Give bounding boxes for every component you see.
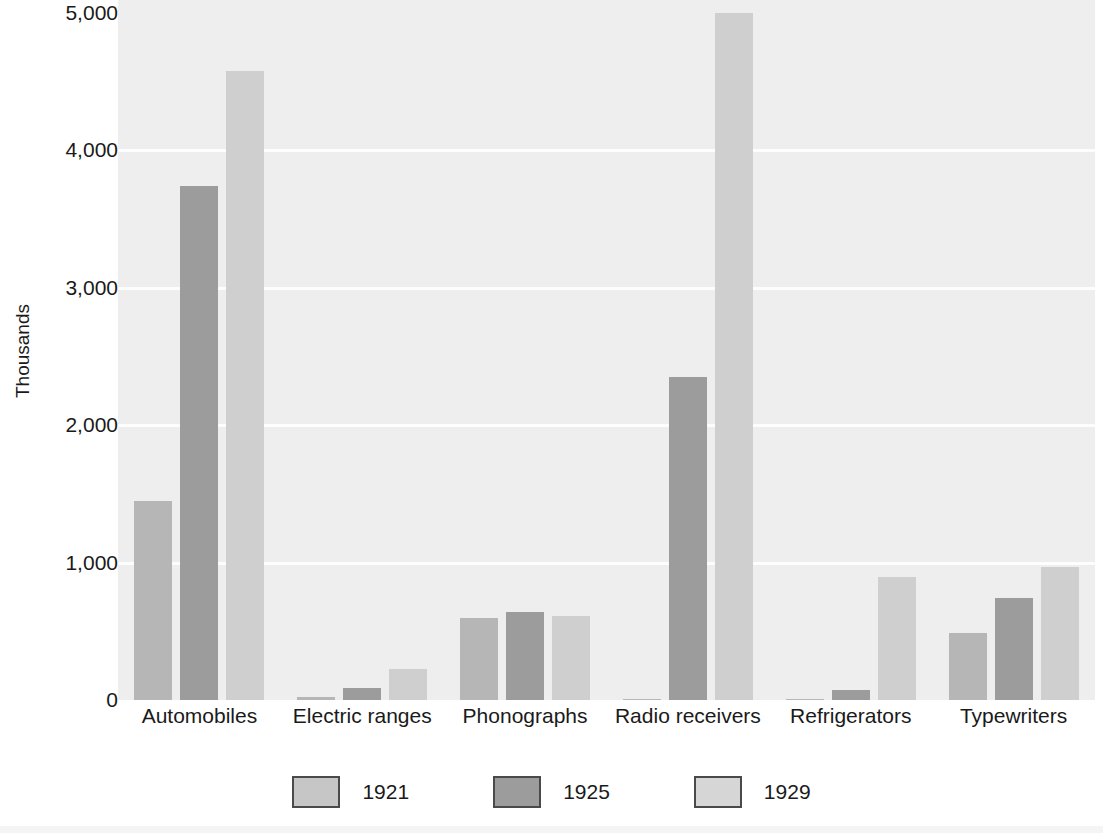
legend-item-1921[interactable]: 1921 <box>292 776 409 808</box>
y-axis-tick-label: 5,000 <box>10 1 118 25</box>
bar-electric-ranges-1921[interactable] <box>297 697 335 700</box>
legend-label-1929: 1929 <box>764 780 811 804</box>
bar-automobiles-1921[interactable] <box>134 501 172 700</box>
legend-label-1921: 1921 <box>362 780 409 804</box>
bar-refrigerators-1925[interactable] <box>832 690 870 700</box>
x-axis-label-typewriters: Typewriters <box>960 704 1067 728</box>
bar-typewriters-1925[interactable] <box>995 598 1033 700</box>
x-axis-label-automobiles: Automobiles <box>142 704 258 728</box>
bar-phonographs-1925[interactable] <box>506 612 544 700</box>
bar-typewriters-1929[interactable] <box>1041 567 1079 700</box>
chart-legend: 192119251929 <box>0 772 1103 812</box>
bar-group <box>932 0 1095 700</box>
bar-group <box>769 0 932 700</box>
x-axis-labels: AutomobilesElectric rangesPhonographsRad… <box>118 704 1095 738</box>
bar-electric-ranges-1929[interactable] <box>389 669 427 700</box>
legend-swatch-1925 <box>493 776 541 808</box>
bar-phonographs-1929[interactable] <box>552 616 590 700</box>
bar-phonographs-1921[interactable] <box>460 618 498 700</box>
bar-group <box>607 0 770 700</box>
legend-label-1925: 1925 <box>563 780 610 804</box>
bars-layer <box>118 0 1095 700</box>
legend-swatch-1929 <box>694 776 742 808</box>
y-axis-tick-label: 4,000 <box>10 138 118 162</box>
bar-group <box>118 0 281 700</box>
bar-group <box>281 0 444 700</box>
bar-refrigerators-1929[interactable] <box>878 577 916 700</box>
bar-automobiles-1925[interactable] <box>180 186 218 700</box>
bar-electric-ranges-1925[interactable] <box>343 688 381 700</box>
y-axis-tick-label: 1,000 <box>10 551 118 575</box>
x-axis-label-refrigerators: Refrigerators <box>790 704 911 728</box>
x-axis-label-radio-receivers: Radio receivers <box>615 704 761 728</box>
bar-chart: 01,0002,0003,0004,0005,000 Thousands Aut… <box>0 0 1103 833</box>
x-axis-label-phonographs: Phonographs <box>463 704 588 728</box>
x-axis-label-electric-ranges: Electric ranges <box>293 704 432 728</box>
bar-radio-receivers-1929[interactable] <box>715 13 753 700</box>
bar-radio-receivers-1921[interactable] <box>623 699 661 700</box>
y-axis-tick-label: 0 <box>10 688 118 712</box>
legend-item-1925[interactable]: 1925 <box>493 776 610 808</box>
y-axis-title: Thousands <box>12 271 34 431</box>
bar-group <box>444 0 607 700</box>
legend-swatch-1921 <box>292 776 340 808</box>
bar-typewriters-1921[interactable] <box>949 633 987 700</box>
bar-automobiles-1929[interactable] <box>226 71 264 700</box>
bar-refrigerators-1921[interactable] <box>786 699 824 700</box>
legend-item-1929[interactable]: 1929 <box>694 776 811 808</box>
bar-radio-receivers-1925[interactable] <box>669 377 707 700</box>
